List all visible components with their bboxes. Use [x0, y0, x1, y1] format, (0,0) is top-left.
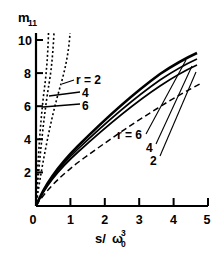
curve-steep-r2: [36, 33, 70, 206]
axes-group: [36, 33, 208, 206]
x-axis-title-omega-superscript: 3: [121, 228, 126, 238]
steep-dotted-curves: [36, 33, 70, 206]
left-legend-labels: r = 2 4 6: [76, 73, 101, 113]
legend-label-right-r6: r = 6: [117, 128, 142, 142]
x-tick-label-4: 4: [170, 213, 177, 227]
x-tick-label-0: 0: [30, 213, 37, 227]
figure-panel: 2 4 6 8 10 0 1 2 3 4 5 m 11: [0, 0, 217, 254]
legend-label-left-4: 4: [82, 86, 89, 100]
x-tick-label-2: 2: [101, 213, 108, 227]
curve-steep-r6: [36, 33, 49, 206]
right-leader-2: [160, 72, 196, 156]
x-tick-label-5: 5: [204, 213, 211, 227]
right-legend-labels: r = 6 4 2: [117, 128, 157, 168]
x-tick-label-1: 1: [67, 213, 74, 227]
x-axis-title: s/ ω 0 3: [95, 228, 126, 249]
y-tick-label-8: 8: [24, 67, 31, 81]
legend-label-left-6: 6: [82, 99, 89, 113]
left-leader-4: [49, 92, 80, 96]
x-tick-label-3: 3: [136, 213, 143, 227]
x-axis-title-base: s/: [95, 231, 106, 246]
y-tick-label-6: 6: [24, 100, 31, 114]
left-leader-6: [43, 104, 80, 107]
y-tick-label-4: 4: [24, 133, 31, 147]
y-tick-label-2: 2: [24, 166, 31, 180]
right-legend-leaders: [146, 60, 196, 156]
y-axis-tick-labels: 2 4 6 8 10: [18, 34, 32, 181]
x-axis-tick-labels: 0 1 2 3 4 5: [30, 213, 211, 227]
x-axis-title-omega-subscript: 0: [121, 239, 126, 249]
x-axis-ticks: [70, 198, 208, 206]
left-leader-r2: [62, 80, 74, 84]
legend-label-right-2: 2: [150, 154, 157, 168]
y-tick-label-10: 10: [18, 34, 32, 48]
y-axis-title: m 11: [18, 10, 37, 28]
legend-label-left-r2: r = 2: [76, 73, 101, 87]
y-axis-title-subscript: 11: [28, 18, 37, 28]
legend-label-right-4: 4: [146, 141, 153, 155]
chart-canvas: 2 4 6 8 10 0 1 2 3 4 5 m 11: [0, 0, 217, 254]
